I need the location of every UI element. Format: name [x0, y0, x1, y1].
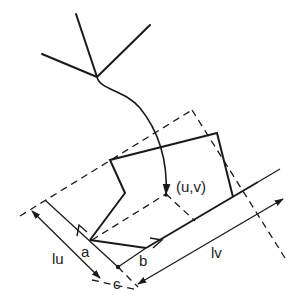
- mapping-curve-arrow: [97, 77, 166, 194]
- v-axis-extension: [258, 169, 280, 182]
- label-lv: lv: [211, 244, 222, 261]
- branch-node: [42, 14, 150, 77]
- corner-c-dot: [116, 265, 120, 269]
- label-b: b: [139, 252, 147, 269]
- label-lu: lu: [52, 250, 64, 267]
- lu-dimension-line: [32, 211, 100, 278]
- branch-right: [97, 25, 150, 77]
- edge-a-b: [90, 240, 146, 248]
- branch-up: [76, 14, 97, 77]
- dashed-uv-guides: [92, 194, 195, 287]
- label-a: a: [81, 243, 90, 260]
- branch-left: [42, 54, 97, 77]
- uv-point-dot: [164, 193, 168, 197]
- diagram-canvas: (u,v) a b c lu lv: [0, 0, 297, 304]
- uv-label: (u,v): [176, 178, 206, 195]
- label-c: c: [113, 275, 121, 292]
